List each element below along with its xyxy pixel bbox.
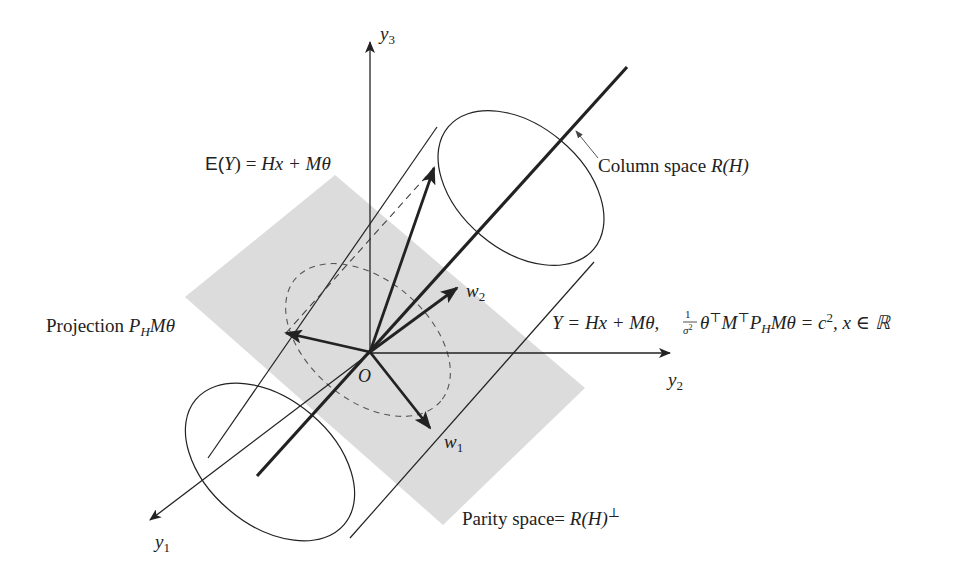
cylinder-equation-rest: θ⊤M⊤PHMθ = c2, x ∈ ℝ (700, 310, 891, 336)
cylinder-end-right (408, 79, 633, 296)
origin-label: O (358, 366, 371, 386)
axis-y2-label: y2 (666, 369, 683, 393)
column-space-callout (576, 131, 598, 158)
w2-label: w2 (466, 280, 485, 304)
projection-label: Projection PHMθ (46, 315, 175, 339)
axis-y1-label: y1 (153, 531, 170, 555)
diagram-canvas: y3 y2 y1 O w2 w1 E(Y) = Hx + Mθ Column s… (0, 0, 958, 581)
cylinder-eq-frac-num: 1 (685, 308, 691, 320)
column-space-label: Column space R(H) (598, 155, 749, 177)
axis-y3-label: y3 (378, 23, 395, 47)
expectation-label: E(Y) = Hx + Mθ (205, 153, 331, 175)
axis-y1 (150, 353, 370, 520)
geometry-figure: y3 y2 y1 O w2 w1 E(Y) = Hx + Mθ Column s… (0, 0, 958, 581)
cylinder-eq-frac-den: σ2 (683, 323, 692, 336)
cylinder-equation-label: Y = Hx + Mθ, (552, 312, 659, 333)
parity-space-label: Parity space= R(H)⊥ (462, 505, 620, 530)
